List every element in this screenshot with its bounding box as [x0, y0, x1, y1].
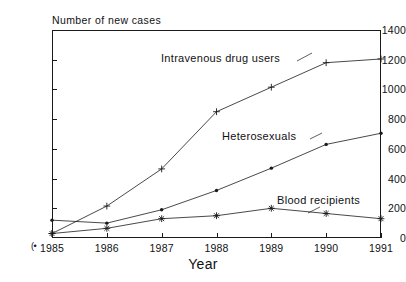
series-label-heterosexuals: Heterosexuals	[222, 130, 296, 142]
line-chart-figure: Number of new cases 02004006008001000120…	[0, 0, 406, 282]
y-axis-title: Number of new cases	[52, 14, 161, 26]
x-axis-tick-label: 1990	[314, 242, 338, 254]
x-axis-tick-label: 1987	[150, 242, 174, 254]
x-axis-tick-label: 1986	[95, 242, 119, 254]
x-axis-tick-mark	[162, 233, 163, 238]
series-label-blood-recipients: Blood recipients	[277, 194, 360, 206]
x-axis-tick-mark	[271, 233, 272, 238]
x-axis-tick-label: 1988	[204, 242, 228, 254]
series-label-intravenous-drug-users: Intravenous drug users	[161, 52, 280, 64]
x-axis-tick-label: 1985	[40, 242, 64, 254]
x-axis-tick-mark	[381, 233, 382, 238]
origin-stray-glyph: (•	[31, 241, 36, 251]
x-axis-tick-mark	[217, 233, 218, 238]
x-axis-tick-label: 1991	[369, 242, 393, 254]
x-axis-tick-mark	[52, 233, 53, 238]
x-axis-title: Year	[0, 256, 406, 272]
x-axis-tick-label: 1989	[259, 242, 283, 254]
x-axis-tick-mark	[107, 233, 108, 238]
x-axis-tick-mark	[326, 233, 327, 238]
